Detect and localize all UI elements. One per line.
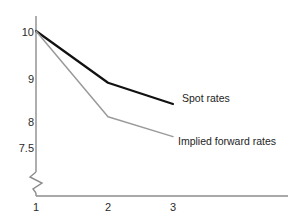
x-tick-label-2: 2: [98, 202, 118, 213]
y-tick-label-8: 8: [10, 117, 34, 128]
series-label-spot-rates: Spot rates: [182, 93, 230, 104]
x-tick-label-1: 1: [26, 202, 46, 213]
chart-plot-area: [0, 0, 304, 222]
y-tick-label-7-5: 7.5: [4, 143, 34, 154]
series-label-implied-forward-rates: Implied forward rates: [178, 136, 276, 147]
chart-container: 10 9 8 7.5 1 2 3 Spot rates Implied forw…: [0, 0, 304, 222]
x-tick-label-3: 3: [163, 202, 183, 213]
series-line-spot-rates: [36, 31, 173, 104]
axis-break-icon: [30, 172, 42, 193]
y-tick-label-10: 10: [10, 27, 34, 38]
y-tick-label-9: 9: [10, 74, 34, 85]
